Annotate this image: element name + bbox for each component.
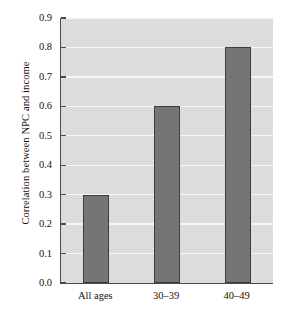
y-axis-tick-mark: [61, 223, 66, 224]
y-axis-tick-label: 0.6: [39, 101, 52, 111]
bar: [225, 47, 251, 283]
y-axis-tick-mark: [61, 253, 66, 254]
bar-chart-figure: Correlation between NPC and income 0.00.…: [0, 0, 283, 316]
bar: [154, 106, 180, 283]
y-axis-tick-label: 0.5: [39, 131, 52, 141]
gridline: [61, 17, 273, 18]
y-axis-tick-mark: [61, 106, 66, 107]
y-axis-tick-mark: [61, 17, 66, 18]
plot-inner: [61, 18, 273, 283]
y-axis-tick-labels: 0.00.10.20.30.40.50.60.70.80.9: [18, 18, 57, 283]
y-axis-tick-label: 0.3: [39, 190, 52, 200]
y-axis-tick-label: 0.1: [39, 249, 52, 259]
x-axis-tick-labels: All ages30–3940–49: [60, 289, 272, 309]
y-axis-tick-label: 0.8: [39, 42, 52, 52]
y-axis-tick-label: 0.2: [39, 219, 52, 229]
plot-area: [60, 18, 273, 284]
x-axis-tick-label: All ages: [78, 289, 113, 302]
y-axis-tick-label: 0.4: [39, 160, 52, 170]
y-axis-tick-mark: [61, 47, 66, 48]
y-axis-tick-label: 0.0: [39, 278, 52, 288]
y-axis-tick-mark: [61, 165, 66, 166]
y-axis-tick-label: 0.7: [39, 72, 52, 82]
y-axis-tick-label: 0.9: [39, 13, 52, 23]
y-axis-tick-mark: [61, 135, 66, 136]
bar: [83, 195, 109, 283]
y-axis-tick-mark: [61, 282, 66, 283]
x-axis-tick-label: 30–39: [153, 289, 179, 302]
y-axis-tick-mark: [61, 76, 66, 77]
y-axis-tick-mark: [61, 194, 66, 195]
x-axis-tick-label: 40–49: [224, 289, 250, 302]
